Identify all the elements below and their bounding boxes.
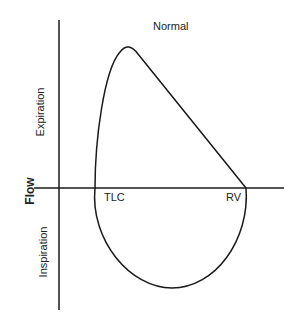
expiration-curve [95,47,246,188]
inspiration-label: Inspiration [37,227,49,278]
tlc-label: TLC [104,191,125,203]
chart-title: Normal [153,20,188,32]
inspiration-curve [95,188,247,288]
flow-axis-label: Flow [23,177,37,204]
expiration-label: Expiration [34,88,46,137]
rv-label: RV [226,191,241,203]
